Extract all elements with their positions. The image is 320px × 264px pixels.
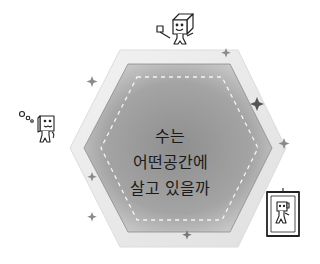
title-line-1: 수는 <box>110 124 230 150</box>
title-line-2: 어떤공간에 <box>110 150 230 176</box>
cube-character-with-flag-icon <box>157 14 193 44</box>
title-text: 수는 어떤공간에 살고 있을까 <box>110 124 230 202</box>
title-line-3: 살고 있을까 <box>110 176 230 202</box>
framed-cube-portrait-icon <box>267 188 299 236</box>
illustration: 수는 어떤공간에 살고 있을까 <box>0 0 320 264</box>
cube-character-thinking-icon <box>20 112 55 143</box>
